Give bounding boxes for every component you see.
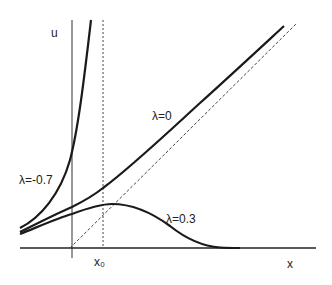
label-lambda-0: λ=0 xyxy=(152,109,172,123)
x-axis-label: x xyxy=(287,257,293,271)
background xyxy=(0,0,332,285)
label-lambda-neg07: λ=-0.7 xyxy=(19,173,53,187)
y-axis-label: u xyxy=(51,26,58,40)
label-lambda-03: λ=0.3 xyxy=(166,212,196,226)
diagram-figure: u x x₀ λ=-0.7 λ=0 λ=0.3 xyxy=(0,0,332,285)
x0-label: x₀ xyxy=(94,255,105,269)
